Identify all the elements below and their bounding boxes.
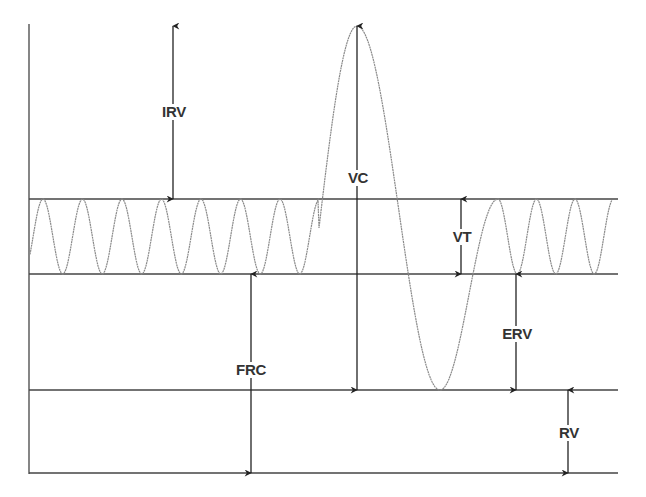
label-vt: VT	[452, 229, 473, 245]
measurement-arrows	[173, 26, 568, 473]
label-vc: VC	[347, 170, 369, 186]
label-rv: RV	[558, 425, 580, 441]
diagram-canvas	[0, 0, 646, 497]
lung-volume-diagram: IRV VC VT FRC ERV RV	[0, 0, 646, 497]
label-irv: IRV	[161, 104, 187, 120]
label-frc: FRC	[235, 362, 267, 378]
label-erv: ERV	[501, 326, 533, 342]
